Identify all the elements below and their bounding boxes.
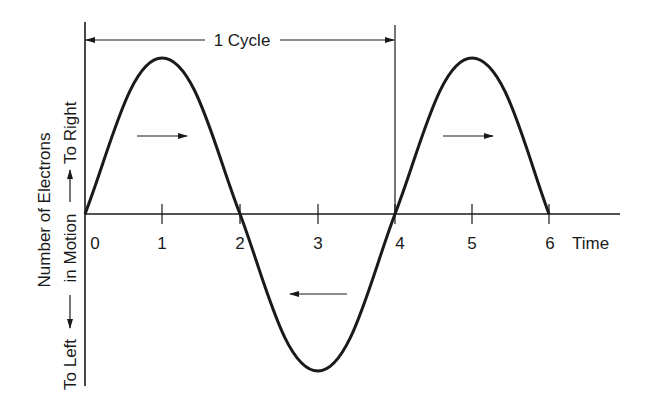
y-label-to-left: To Left [61, 339, 80, 390]
tick-label-1: 1 [157, 234, 166, 253]
tick-label-4: 4 [395, 234, 404, 253]
tick-label-3: 3 [313, 234, 322, 253]
tick-label-2: 2 [235, 234, 244, 253]
x-axis-label: Time [572, 234, 609, 253]
svg-text:Number of Electrons: Number of Electrons [35, 133, 54, 288]
ac-cycle-diagram: 0 1 2 3 4 5 6 Time 1 Cycle Number of Ele… [0, 0, 648, 404]
y-axis-label-line1: Number of Electrons [35, 133, 54, 288]
tick-label-6: 6 [545, 234, 554, 253]
y-label-in-motion: in Motion [61, 214, 80, 283]
tick-label-0: 0 [90, 234, 99, 253]
y-axis-label-line2: To Left in Motion To Right [61, 101, 80, 390]
y-label-to-right: To Right [61, 101, 80, 164]
cycle-label: 1 Cycle [214, 31, 271, 50]
tick-label-5: 5 [467, 234, 476, 253]
